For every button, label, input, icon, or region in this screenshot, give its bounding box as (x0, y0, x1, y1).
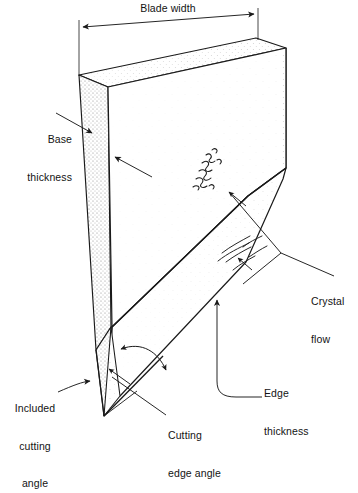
cutting-edge-angle-line1: Cutting (168, 429, 260, 442)
included-cutting-angle-line2: cutting (4, 440, 66, 453)
edge-thickness-label: Edge thickness (264, 362, 334, 462)
cutting-edge-angle-label: Cutting edge angle (168, 404, 260, 493)
blade-width-label: Blade width (108, 2, 228, 15)
included-cutting-angle-line3: angle (4, 477, 66, 490)
included-cutting-angle-label: Included cutting angle (4, 377, 66, 493)
crystal-flow-line2: flow (311, 333, 357, 346)
crystal-flow-label: Crystal flow (311, 270, 357, 370)
edge-thickness-line1: Edge (264, 387, 334, 400)
edge-thickness-leader (217, 300, 262, 397)
crystal-flow-line1: Crystal (311, 295, 357, 308)
base-thickness-line2: thickness (6, 171, 72, 184)
cutting-edge-angle-line2: edge angle (168, 467, 260, 480)
blade-right-end-face (281, 48, 286, 175)
blade-base-thickness-face (79, 75, 111, 350)
edge-thickness-line2: thickness (264, 425, 334, 438)
included-cutting-angle-line1: Included (4, 402, 66, 415)
base-thickness-label: Base thickness (6, 108, 72, 208)
base-thickness-line1: Base (6, 133, 72, 146)
